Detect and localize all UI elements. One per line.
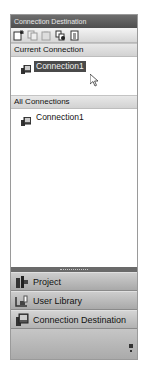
connection-icon: [21, 61, 31, 71]
grip-handle[interactable]: [60, 269, 88, 271]
nav-button-connection-destination[interactable]: Connection Destination: [11, 310, 137, 329]
all-connections-header: All Connections: [11, 95, 137, 109]
current-connection-label[interactable]: Connection1: [34, 61, 86, 72]
connection-destination-panel: Connection Destination Current Connectio…: [10, 14, 138, 360]
nav-label-connection-destination: Connection Destination: [33, 315, 126, 325]
connect-icon[interactable]: [55, 30, 66, 41]
all-connections-item[interactable]: Connection1: [11, 111, 137, 124]
project-icon: [15, 275, 29, 289]
new-document-icon[interactable]: [13, 30, 24, 41]
current-connection-item[interactable]: Connection1: [11, 59, 137, 73]
list-document-icon[interactable]: [69, 30, 80, 41]
paste-icon[interactable]: [41, 30, 52, 41]
copy-icon[interactable]: [27, 30, 38, 41]
nav-button-project[interactable]: Project: [11, 272, 137, 291]
more-buttons-icon[interactable]: [129, 338, 133, 356]
panel-title: Connection Destination: [11, 15, 137, 28]
nav-button-user-library[interactable]: User Library: [11, 291, 137, 310]
connection-icon: [21, 113, 31, 123]
mouse-cursor-icon: [90, 73, 99, 91]
connection-destination-icon: [15, 313, 29, 327]
current-connection-header: Current Connection: [11, 43, 137, 57]
nav-label-user-library: User Library: [33, 296, 82, 306]
nav-label-project: Project: [33, 277, 61, 287]
user-library-icon: [15, 294, 29, 308]
toolbar: [11, 28, 137, 43]
all-connections-label[interactable]: Connection1: [34, 112, 86, 123]
nav-footer: [11, 329, 137, 359]
